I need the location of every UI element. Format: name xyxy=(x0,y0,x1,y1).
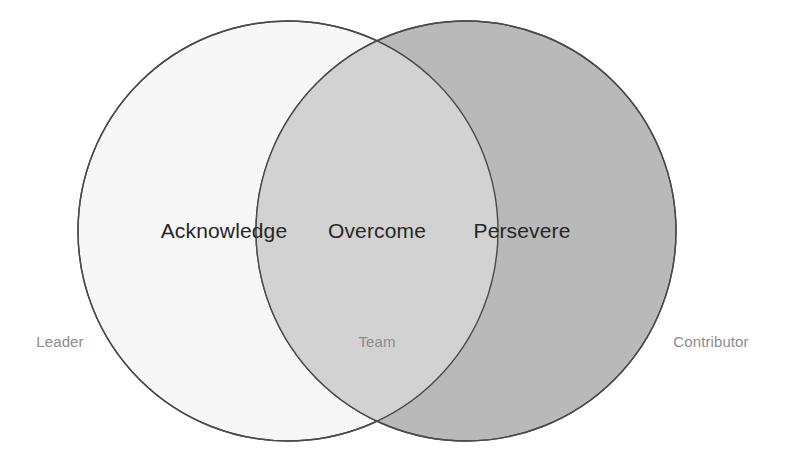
venn-label-left: Acknowledge xyxy=(161,219,288,243)
venn-label-right: Persevere xyxy=(473,219,570,243)
venn-diagram-canvas: Acknowledge Overcome Persevere Leader Te… xyxy=(0,0,788,456)
venn-caption-right: Contributor xyxy=(673,333,748,350)
venn-label-intersection: Overcome xyxy=(328,219,426,243)
venn-caption-intersection: Team xyxy=(358,333,395,350)
venn-caption-left: Leader xyxy=(36,333,83,350)
